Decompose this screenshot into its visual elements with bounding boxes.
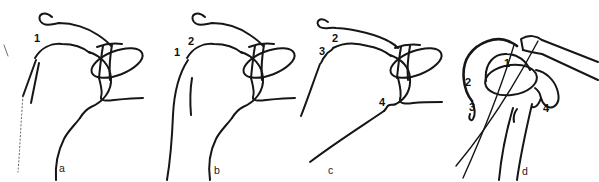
part-label-2: 2 <box>332 32 338 44</box>
panel-letter-d: d <box>522 165 528 177</box>
clavicle-block-top <box>521 36 542 50</box>
part-label-1: 1 <box>504 57 510 69</box>
acromion-tick <box>395 45 420 48</box>
humeral-head-dome-with-tuberosity-step <box>321 44 391 63</box>
glenoid-ellipse <box>87 42 146 84</box>
panel-letter-b: b <box>214 164 220 176</box>
shaft-sweep-line <box>310 111 384 162</box>
part-label-4: 4 <box>379 96 386 108</box>
arm-contour-faint <box>18 96 23 172</box>
panel-letter-c: c <box>328 164 333 176</box>
part-label-2: 2 <box>188 35 194 47</box>
part-label-1: 1 <box>174 46 180 58</box>
panel-b: 1 2 b <box>150 0 300 182</box>
clavicle-outline <box>39 14 111 46</box>
humeral-head-ellipse <box>483 62 539 99</box>
humeral-shaft-lateral <box>167 60 188 180</box>
part-label-2: 2 <box>465 76 471 88</box>
glenoid-ellipse <box>239 42 298 84</box>
humeral-shaft-medial <box>209 118 232 180</box>
shaft-elbow-mark <box>514 109 517 122</box>
fracture-line <box>190 78 192 115</box>
part-label-4: 4 <box>543 102 550 114</box>
panel-letter-a: a <box>59 162 65 174</box>
coracoid-tail <box>532 98 541 107</box>
clavicle-outline <box>192 14 263 46</box>
humeral-head-dome <box>35 44 90 58</box>
acromion-band-left <box>99 46 103 78</box>
panel-c: 2 3 4 c <box>300 0 450 182</box>
stray-mark <box>4 45 8 56</box>
acromion-band-left <box>251 46 255 78</box>
shoulder-fracture-classification-figure: 1 a 1 2 b 2 3 4 c <box>0 0 599 182</box>
part-label-3: 3 <box>319 45 325 57</box>
part-label-1: 1 <box>34 32 40 44</box>
scapula-lateral-border <box>398 78 442 104</box>
humeral-shaft-left <box>499 108 513 180</box>
panel-a: 1 a <box>0 0 150 182</box>
part-label-3: 3 <box>469 101 475 113</box>
acromion-band-left <box>397 47 401 78</box>
humeral-shaft-lateral <box>301 64 320 116</box>
panel-d: 1 2 3 4 d <box>450 0 599 182</box>
humeral-head-dome <box>187 44 242 58</box>
